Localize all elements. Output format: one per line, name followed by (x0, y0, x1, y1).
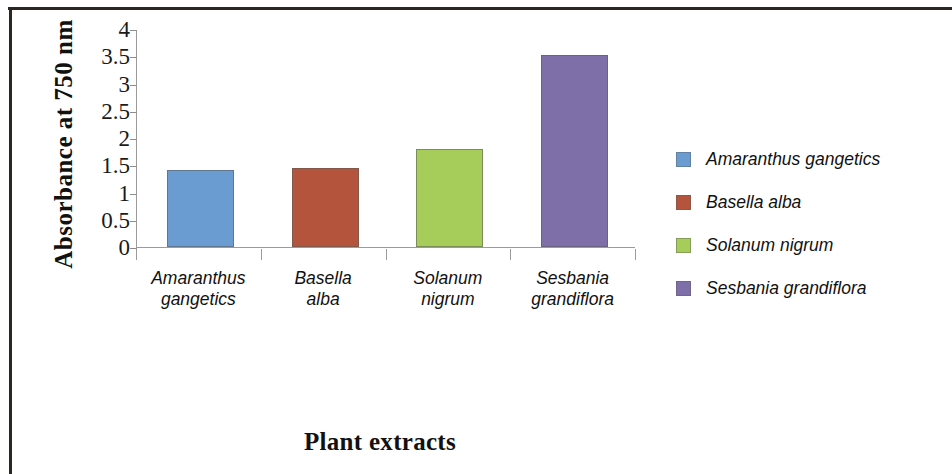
x-tick-label-line: nigrum (386, 289, 511, 310)
legend-label: Amaranthus gangetics (706, 149, 880, 170)
bar-2 (416, 149, 483, 247)
y-tick-mark (130, 85, 137, 86)
x-separator (510, 249, 511, 260)
y-tick-label: 3 (74, 73, 130, 96)
x-separator (261, 249, 262, 260)
y-tick-label: 1 (74, 182, 130, 205)
x-tick-label-0: Amaranthusgangetics (136, 268, 261, 310)
x-tick-label-line: Solanum (386, 268, 511, 289)
x-tick-label-line: Amaranthus (136, 268, 261, 289)
x-tick-label-line: grandiflora (510, 289, 635, 310)
y-tick-mark (130, 57, 137, 58)
y-tick-label: 2.5 (74, 100, 130, 123)
y-tick-mark (130, 248, 137, 249)
bar-3 (541, 55, 608, 247)
y-tick-label: 1.5 (74, 154, 130, 177)
legend-label: Basella alba (706, 192, 801, 213)
y-tick-label: 0 (74, 236, 130, 259)
legend-swatch-icon (676, 195, 691, 210)
legend-swatch-icon (676, 238, 691, 253)
y-tick-mark (130, 30, 137, 31)
x-tick-label-line: alba (261, 289, 386, 310)
legend-label: Sesbania grandiflora (706, 278, 867, 299)
y-tick-label: 2 (74, 127, 130, 150)
x-tick-label-2: Solanumnigrum (386, 268, 511, 310)
x-axis-line (136, 247, 635, 248)
x-tick-label-line: Sesbania (510, 268, 635, 289)
legend-label: Solanum nigrum (706, 235, 833, 256)
legend-swatch-icon (676, 152, 691, 167)
legend-swatch-icon (676, 281, 691, 296)
bar-0 (167, 170, 234, 247)
y-tick-mark (130, 139, 137, 140)
x-separator (136, 249, 137, 260)
y-tick-label: 4 (74, 18, 130, 41)
x-axis-title: Plant extracts (0, 428, 760, 456)
y-axis-tick-labels: 43.532.521.510.50 (72, 0, 130, 260)
x-tick-label-line: Basella (261, 268, 386, 289)
y-tick-mark (130, 194, 137, 195)
x-tick-label-1: Basellaalba (261, 268, 386, 310)
y-tick-mark (130, 221, 137, 222)
bar-1 (292, 168, 359, 247)
x-tick-label-line: gangetics (136, 289, 261, 310)
chart-page: Absorbance at 750 nm 43.532.521.510.50 A… (0, 0, 952, 474)
plot-area (136, 30, 635, 248)
y-tick-label: 3.5 (74, 45, 130, 68)
page-border-top (8, 7, 952, 10)
y-tick-mark (130, 166, 137, 167)
y-tick-mark (130, 112, 137, 113)
x-separator (635, 249, 636, 260)
x-separator (386, 249, 387, 260)
x-tick-label-3: Sesbaniagrandiflora (510, 268, 635, 310)
y-tick-label: 0.5 (74, 209, 130, 232)
page-border-left (9, 7, 12, 474)
